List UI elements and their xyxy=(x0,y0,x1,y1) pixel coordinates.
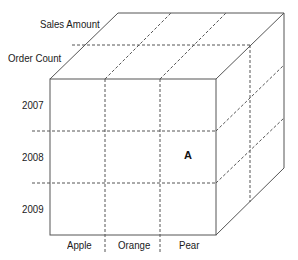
measure-label-sales-amount: Sales Amount xyxy=(40,18,100,30)
measure-label-order-count: Order Count xyxy=(8,52,61,64)
highlighted-cell-marker: A xyxy=(184,149,192,161)
year-label-2007: 2007 xyxy=(22,99,44,111)
year-label-2009: 2009 xyxy=(22,203,44,215)
year-label-2008: 2008 xyxy=(22,151,44,163)
product-label-pear: Pear xyxy=(179,239,199,251)
cube-diagram xyxy=(0,0,298,260)
product-label-apple: Apple xyxy=(67,239,92,251)
product-label-orange: Orange xyxy=(118,239,150,251)
